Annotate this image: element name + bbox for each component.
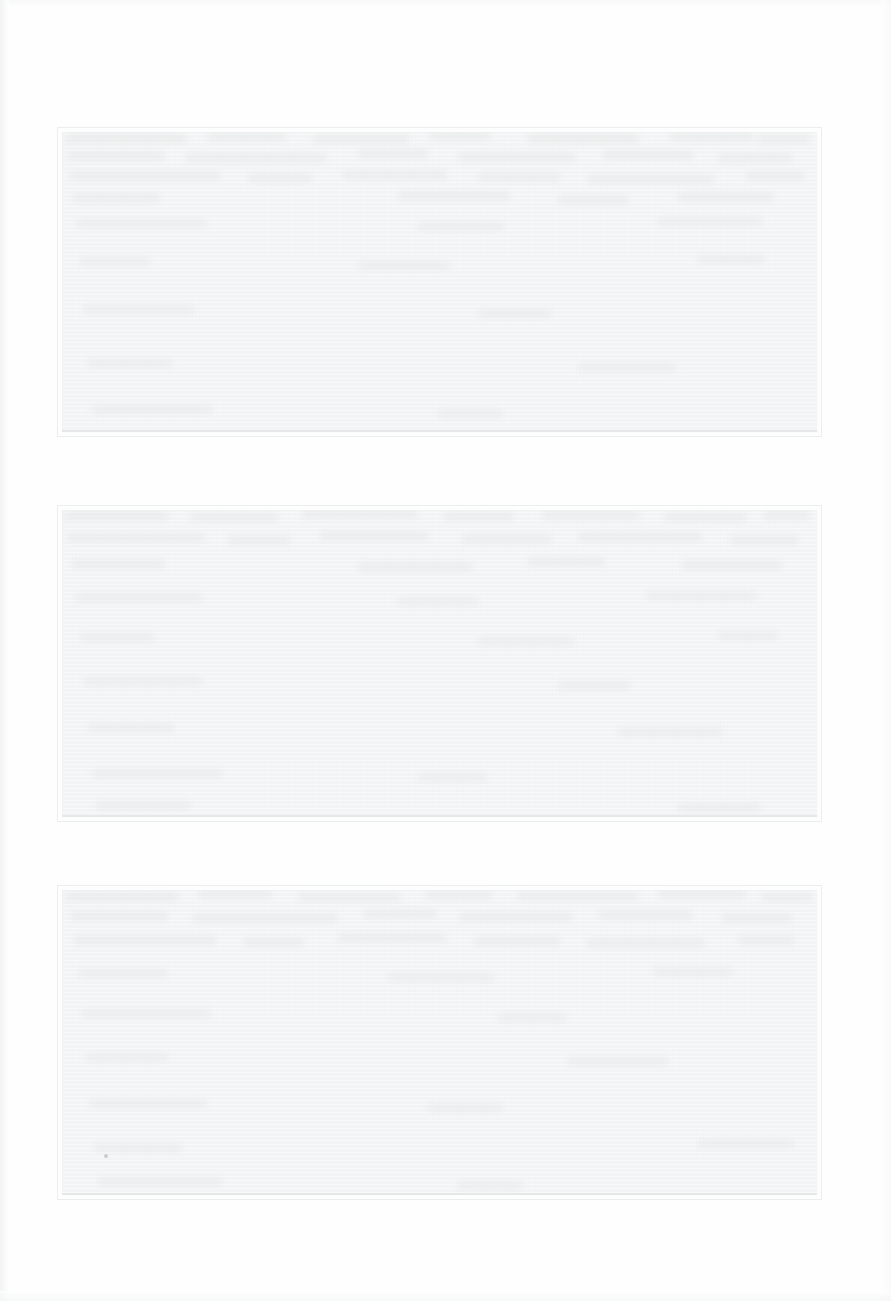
bottom-rule (61, 815, 818, 818)
faded-text-cluster (578, 533, 702, 541)
faded-text-cluster (646, 592, 756, 599)
faded-text-cluster (364, 910, 436, 918)
left-rule (60, 889, 62, 1196)
bottom-rule (61, 1193, 818, 1196)
faded-text-cluster (658, 218, 762, 225)
faded-text-cluster (228, 536, 290, 544)
faded-text-cluster (70, 912, 168, 920)
top-rule (61, 888, 818, 890)
faded-text-cluster (80, 258, 150, 265)
faded-text-cluster (82, 1010, 210, 1017)
faded-text-cluster (418, 223, 504, 230)
table-block (57, 127, 822, 437)
faded-text-cluster (618, 728, 722, 735)
faded-text-cluster (458, 1182, 522, 1189)
faded-text-cluster (458, 153, 576, 161)
faded-text-cluster (338, 934, 446, 942)
faded-text-cluster (698, 256, 764, 263)
faded-text-cluster (528, 134, 638, 143)
faded-text-cluster (302, 510, 418, 518)
faded-text-cluster (68, 152, 164, 160)
faded-text-cluster (248, 174, 312, 182)
scan-edge-left (0, 0, 9, 1301)
faded-text-cluster (758, 135, 810, 143)
faded-text-cluster (88, 724, 174, 731)
faded-text-cluster (478, 638, 574, 645)
faded-text-cluster (84, 306, 194, 313)
faded-text-cluster (542, 511, 640, 519)
faded-text-cluster (398, 598, 478, 605)
faded-text-cluster (586, 939, 704, 947)
faded-text-cluster (66, 892, 178, 901)
faded-text-cluster (762, 893, 812, 901)
faded-text-cluster (498, 1014, 566, 1021)
faded-text-cluster (78, 970, 168, 977)
faded-text-cluster (698, 1140, 794, 1147)
faded-text-cluster (190, 513, 278, 521)
faded-text-cluster (478, 310, 552, 317)
table-block (57, 885, 822, 1200)
faded-text-cluster (80, 634, 154, 641)
faded-text-cluster (358, 262, 450, 269)
faded-text-cluster (74, 936, 216, 944)
faded-text-cluster (90, 1100, 206, 1107)
faded-text-cluster (92, 406, 212, 413)
faded-text-cluster (670, 133, 754, 141)
faded-text-cluster (96, 802, 190, 809)
right-rule (817, 509, 819, 818)
faded-text-cluster (418, 774, 486, 781)
faded-text-cluster (588, 175, 714, 183)
faded-text-cluster (474, 937, 560, 945)
faded-text-cluster (94, 1144, 182, 1151)
right-rule (817, 889, 819, 1196)
scanned-page (0, 0, 891, 1301)
faded-text-cluster (198, 890, 272, 898)
faded-text-cluster (460, 913, 572, 921)
faded-text-cluster (428, 1104, 502, 1111)
top-rule (61, 130, 818, 132)
faded-text-cluster (72, 560, 164, 568)
faded-text-cluster (313, 135, 409, 143)
faded-text-cluster (68, 534, 204, 542)
faded-text-cluster (192, 914, 338, 922)
faded-text-cluster (72, 194, 160, 202)
faded-text-cluster (578, 364, 676, 371)
faded-text-cluster (84, 678, 202, 685)
ink-speck-artifact (104, 1154, 108, 1158)
faded-text-cluster (343, 171, 447, 179)
faded-text-cluster (764, 511, 810, 519)
faded-text-cluster (718, 632, 778, 639)
faded-text-cluster (64, 511, 168, 520)
scan-edge-right (881, 0, 891, 1301)
faded-text-cluster (66, 134, 186, 143)
faded-text-cluster (298, 893, 400, 901)
left-rule (60, 509, 62, 818)
faded-text-cluster (358, 150, 428, 158)
faded-text-cluster (462, 535, 552, 543)
faded-text-cluster (186, 154, 326, 162)
faded-text-cluster (658, 890, 746, 898)
scan-edge-bottom (0, 1291, 891, 1301)
faded-text-cluster (438, 410, 502, 417)
faded-text-cluster (208, 133, 286, 141)
faded-text-cluster (98, 1178, 222, 1185)
top-rule (61, 508, 818, 510)
faded-text-cluster (654, 968, 732, 975)
faded-text-cluster (664, 513, 746, 521)
faded-text-cluster (70, 172, 220, 180)
faded-text-cluster (568, 1058, 668, 1065)
faded-text-cluster (86, 1054, 168, 1061)
scan-edge-top (0, 0, 891, 7)
faded-text-cluster (558, 682, 630, 689)
faded-text-cluster (398, 192, 510, 200)
faded-text-cluster (320, 532, 428, 540)
faded-text-cluster (746, 172, 804, 180)
faded-text-cluster (603, 151, 693, 159)
bottom-rule (61, 430, 818, 433)
right-rule (817, 131, 819, 433)
faded-text-cluster (88, 360, 172, 367)
left-rule (60, 131, 62, 433)
faded-text-cluster (682, 561, 782, 569)
faded-text-cluster (426, 891, 492, 899)
table-block (57, 505, 822, 822)
